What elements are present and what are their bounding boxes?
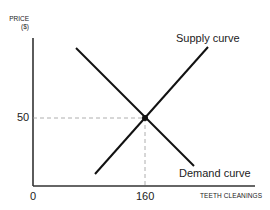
demand-curve-label: Demand curve [179, 167, 251, 179]
equilibrium-point [142, 115, 148, 121]
x-axis-label: TEETH CLEANINGS [200, 192, 262, 199]
demand-curve [76, 48, 194, 166]
y-axis-label-line1: PRICE [9, 15, 29, 23]
y-tick-50: 50 [17, 111, 29, 123]
x-tick-160: 160 [136, 190, 154, 202]
supply-curve [95, 47, 208, 174]
y-axis-label-line2: ($) [21, 23, 29, 31]
origin-label: 0 [30, 190, 36, 202]
supply-curve-label: Supply curve [176, 32, 240, 44]
